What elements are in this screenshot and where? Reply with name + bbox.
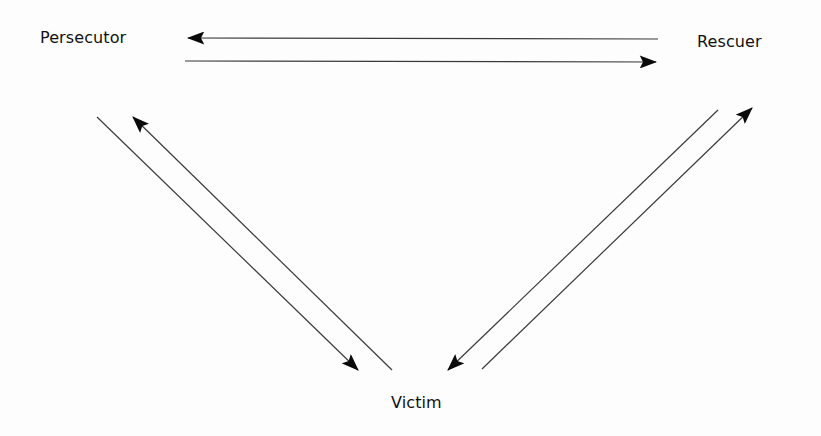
node-victim: Victim [391, 393, 442, 412]
arrow-victim-to-rescuer [482, 108, 752, 369]
node-rescuer: Rescuer [697, 32, 762, 51]
arrow-persecutor-to-victim [97, 117, 358, 370]
node-persecutor: Persecutor [40, 28, 126, 47]
arrow-rescuer-to-victim [448, 110, 718, 370]
arrow-persecutor-to-rescuer [185, 61, 656, 62]
arrow-rescuer-to-persecutor [188, 38, 658, 39]
arrow-victim-to-persecutor [133, 117, 392, 370]
drama-triangle-diagram [0, 0, 821, 436]
